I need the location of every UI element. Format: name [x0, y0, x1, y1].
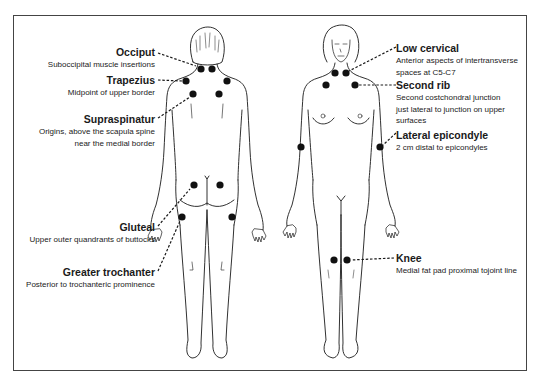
dot-occiput-right	[208, 65, 215, 72]
dot-occiput-left	[197, 65, 204, 72]
tender-points	[178, 65, 383, 263]
dot-supraspinatus-right	[215, 90, 222, 97]
dot-low-cervical-left	[331, 69, 338, 76]
label-desc: Posterior to trochanteric prominence	[26, 279, 155, 291]
label-title: Lateral epicondyle	[396, 129, 488, 142]
leader-lines	[158, 47, 396, 271]
label-title: Knee	[396, 252, 517, 265]
dot-trapezius-right	[223, 77, 230, 84]
label-knee: Knee Medial fat pad proximal tojoint lin…	[396, 252, 517, 277]
label-trapezius: Trapezius Midpoint of upper border	[68, 74, 155, 99]
dot-trochanter-right	[228, 213, 235, 220]
label-desc: Anterior aspects of intertransverse	[396, 55, 518, 67]
label-title: Trapezius	[68, 74, 155, 87]
label-lateral-epicondyle: Lateral epicondyle 2 cm distal to epicon…	[396, 129, 488, 154]
label-title: Low cervical	[396, 42, 518, 55]
label-low-cervical: Low cervical Anterior aspects of intertr…	[396, 42, 518, 78]
posterior-body-outline	[148, 27, 266, 358]
dot-epicondyle-left	[297, 143, 304, 150]
label-desc: spaces at C5-C7	[396, 67, 518, 79]
label-second-rib: Second rib Second costchondral junction …	[396, 79, 505, 127]
label-occiput: Occiput Suboccipital muscle insertions	[48, 46, 155, 71]
dot-knee-right	[343, 256, 350, 263]
label-desc: just lateral to junction on upper	[396, 104, 505, 116]
label-desc: near the medial border	[39, 138, 155, 150]
anterior-body-outline	[283, 25, 399, 358]
label-desc: Medial fat pad proximal tojoint line	[396, 265, 517, 277]
label-desc: Origins, above the scapula spine	[39, 126, 155, 138]
dot-epicondyle-right	[376, 143, 383, 150]
dot-trapezius-left	[182, 77, 189, 84]
label-title: Second rib	[396, 79, 505, 92]
label-greater-trochanter: Greater trochanter Posterior to trochant…	[26, 266, 155, 291]
dot-gluteal-left	[190, 181, 197, 188]
dot-knee-left	[330, 256, 337, 263]
dot-gluteal-right	[216, 181, 223, 188]
label-desc: Second costchondral junction	[396, 92, 505, 104]
label-desc: surfaces	[396, 115, 505, 127]
label-title: Occiput	[48, 46, 155, 59]
dot-supraspinatus-left	[189, 90, 196, 97]
label-desc: Upper outer quandrants of buttocks	[30, 234, 155, 246]
label-desc: Suboccipital muscle insertions	[48, 59, 155, 71]
dot-low-cervical-right	[342, 69, 349, 76]
label-desc: Midpoint of upper border	[68, 87, 155, 99]
dot-second-rib-left	[322, 81, 329, 88]
label-title: Supraspinatur	[39, 113, 155, 126]
dot-trochanter-left	[178, 213, 185, 220]
label-supraspinatur: Supraspinatur Origins, above the scapula…	[39, 113, 155, 149]
label-gluteal: Gluteal Upper outer quandrants of buttoc…	[30, 221, 155, 246]
label-title: Greater trochanter	[26, 266, 155, 279]
label-desc: 2 cm distal to epicondyles	[396, 142, 488, 154]
label-title: Gluteal	[30, 221, 155, 234]
dot-second-rib-right	[351, 81, 358, 88]
